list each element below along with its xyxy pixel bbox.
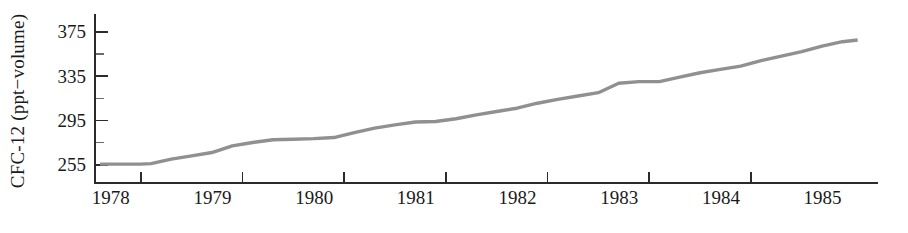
x-axis-ticks xyxy=(141,172,751,183)
y-axis-title: CFC-12 (ppt−volume) xyxy=(7,14,29,188)
x-tick-label: 1982 xyxy=(499,187,537,208)
x-tick-label: 1983 xyxy=(600,187,638,208)
x-axis-tick-labels: 19781979198019811982198319841985 xyxy=(92,187,842,208)
x-tick-label: 1980 xyxy=(295,187,333,208)
chart-canvas: CFC-12 (ppt−volume) 255295335375 1978197… xyxy=(0,0,908,233)
y-tick-label: 295 xyxy=(58,110,87,131)
y-tick-label: 375 xyxy=(58,21,87,42)
x-tick-label: 1979 xyxy=(193,187,231,208)
y-axis-tick-labels: 255295335375 xyxy=(58,21,87,175)
y-tick-label: 255 xyxy=(58,154,87,175)
y-axis-title-group: CFC-12 (ppt−volume) xyxy=(7,14,29,188)
x-tick-label: 1985 xyxy=(804,187,842,208)
x-tick-label: 1981 xyxy=(397,187,435,208)
y-tick-label: 335 xyxy=(58,66,87,87)
axis-frame xyxy=(95,14,878,183)
data-series-cfc12 xyxy=(100,40,858,164)
y-axis-ticks xyxy=(95,32,108,165)
cfc12-line-chart: CFC-12 (ppt−volume) 255295335375 1978197… xyxy=(0,0,908,233)
x-tick-label: 1984 xyxy=(702,187,741,208)
x-tick-label: 1978 xyxy=(92,187,130,208)
